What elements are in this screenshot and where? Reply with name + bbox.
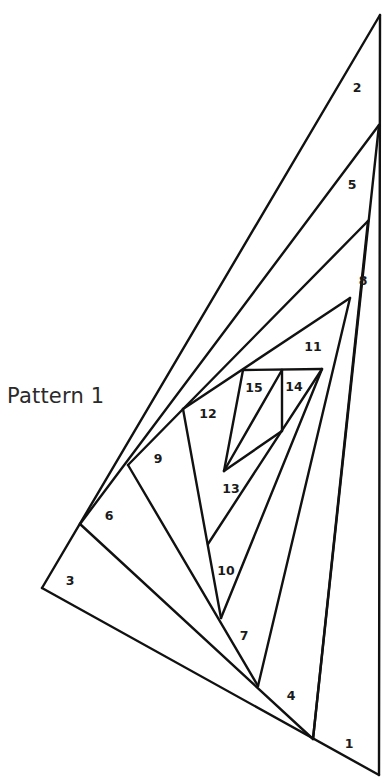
region-label-1: 1 bbox=[345, 736, 354, 751]
region-label-13: 13 bbox=[222, 481, 239, 496]
region-label-11: 11 bbox=[304, 339, 321, 354]
region-label-8: 8 bbox=[359, 273, 368, 288]
pattern-diagram: 123456789101112131415 Pattern 1 bbox=[0, 0, 389, 783]
region-label-12: 12 bbox=[199, 406, 216, 421]
pattern-line-JK bbox=[42, 588, 379, 775]
pattern-line-GN bbox=[183, 409, 221, 618]
pattern-line-AJ bbox=[42, 15, 380, 588]
pattern-title: Pattern 1 bbox=[7, 384, 104, 408]
region-label-2: 2 bbox=[353, 80, 362, 95]
region-label-6: 6 bbox=[105, 508, 114, 523]
pattern-line-CL bbox=[313, 221, 368, 739]
region-label-14: 14 bbox=[285, 379, 303, 394]
pattern-line-QP bbox=[224, 431, 282, 471]
region-label-9: 9 bbox=[154, 451, 163, 466]
region-label-10: 10 bbox=[217, 563, 235, 578]
pattern-line-IL bbox=[80, 524, 313, 739]
region-label-7: 7 bbox=[240, 628, 249, 643]
pattern-line-EO bbox=[208, 369, 322, 544]
pattern-line-BI bbox=[80, 125, 379, 524]
region-label-5: 5 bbox=[348, 177, 357, 192]
region-label-3: 3 bbox=[66, 573, 75, 588]
region-label-4: 4 bbox=[287, 688, 296, 703]
region-label-15: 15 bbox=[245, 380, 262, 395]
